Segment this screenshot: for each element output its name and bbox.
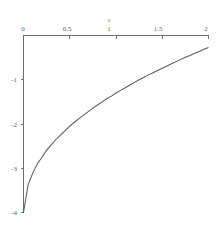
y-axis: -1 -2 -3 -4 [11, 35, 23, 217]
x-tick-label-0.5: 0.5 [63, 25, 72, 33]
data-curve [24, 47, 209, 212]
y-tick-label--1: -1 [11, 76, 17, 84]
plot-figure: 0 0.5 1 1.5 2 x -1 -2 -3 -4 [0, 0, 217, 225]
x-tick-label-0: 0 [21, 25, 25, 33]
x-tick-label-1.5: 1.5 [154, 25, 163, 33]
x-axis-label: x [106, 16, 111, 24]
y-tick-label--4: -4 [11, 209, 17, 217]
plot-svg: 0 0.5 1 1.5 2 x -1 -2 -3 -4 [0, 0, 217, 225]
y-axis-tick-labels: -1 -2 -3 -4 [11, 76, 17, 217]
y-tick-label--3: -3 [11, 165, 17, 173]
x-tick-label-1: 1 [107, 25, 111, 33]
x-tick-label-2: 2 [204, 25, 208, 33]
x-axis-tick-labels: 0 0.5 1 1.5 2 [21, 25, 208, 33]
x-axis: 0 0.5 1 1.5 2 x [21, 16, 209, 39]
y-tick-label--2: -2 [11, 121, 17, 129]
